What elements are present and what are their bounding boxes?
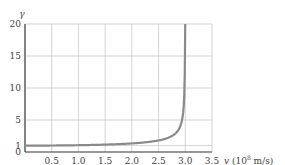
x-tick-label-1.0: 1.0: [71, 156, 86, 165]
x-tick-label-0.5: 0.5: [45, 156, 60, 165]
x-tick-label-2.0: 2.0: [125, 156, 140, 165]
y-tick-label-20: 20: [10, 19, 22, 29]
y-tick-label-10: 10: [10, 83, 22, 93]
y-tick-label-5: 5: [15, 115, 21, 125]
x-tick-label-1.5: 1.5: [98, 156, 113, 165]
x-tick-label-2.5: 2.5: [151, 156, 166, 165]
y-axis-label: γ: [19, 9, 25, 19]
gamma-vs-velocity-chart: 0151015200.51.01.52.02.53.03.5γv (108 m/…: [0, 0, 285, 165]
y-tick-label-1: 1: [15, 141, 21, 151]
x-tick-label-3.5: 3.5: [205, 156, 220, 165]
y-tick-label-15: 15: [10, 51, 22, 61]
x-tick-label-3.0: 3.0: [178, 156, 193, 165]
x-axis-label: v (108 m/s): [224, 154, 273, 165]
